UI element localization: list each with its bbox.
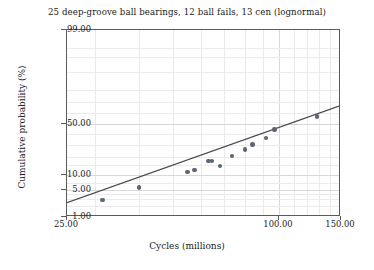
data-point bbox=[185, 170, 189, 174]
data-point bbox=[137, 185, 141, 189]
x-tick-mark bbox=[66, 216, 67, 220]
data-point bbox=[315, 114, 319, 118]
y-tick-mark bbox=[61, 189, 66, 190]
y-tick-mark bbox=[61, 174, 66, 175]
y-tick-mark bbox=[61, 29, 66, 30]
y-tick-label: 5.00 bbox=[72, 184, 91, 194]
y-tick-label: 50.00 bbox=[67, 118, 91, 128]
x-tick-label: 25.00 bbox=[54, 219, 78, 229]
chart-container: 25 deep-groove ball bearings, 12 ball fa… bbox=[0, 0, 374, 270]
data-point bbox=[100, 198, 104, 202]
x-tick-mark bbox=[278, 216, 279, 220]
data-point bbox=[243, 147, 247, 151]
y-axis-title: Cumulative probability (%) bbox=[17, 47, 27, 207]
chart-title: 25 deep-groove ball bearings, 12 ball fa… bbox=[0, 7, 374, 17]
x-axis-title: Cycles (millions) bbox=[0, 241, 374, 251]
y-tick-label: 99.00 bbox=[67, 24, 91, 34]
data-point bbox=[192, 168, 196, 172]
x-tick-label: 150.00 bbox=[325, 219, 354, 229]
y-tick-mark bbox=[61, 123, 66, 124]
x-tick-mark bbox=[340, 216, 341, 220]
data-point bbox=[272, 127, 276, 131]
plot-area bbox=[66, 29, 340, 216]
data-point bbox=[250, 142, 254, 146]
fit-line bbox=[67, 30, 339, 215]
y-tick-label: 10.00 bbox=[67, 169, 91, 179]
x-tick-label: 100.00 bbox=[263, 219, 292, 229]
